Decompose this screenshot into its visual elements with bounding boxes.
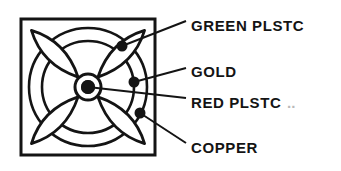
fan-impeller-diagram: GREEN PLSTCGOLDRED PLSTC..COPPER <box>0 0 341 171</box>
callout-labels: GREEN PLSTCGOLDRED PLSTC..COPPER <box>191 17 304 156</box>
marker-dot-green-plstc <box>117 41 128 52</box>
marker-dot-red-plstc <box>81 80 95 94</box>
scan-artifact-red-plstc: .. <box>287 94 295 111</box>
callout-label-green-plstc: GREEN PLSTC <box>191 17 304 34</box>
callout-label-gold: GOLD <box>191 63 237 80</box>
marker-dot-copper <box>135 108 146 119</box>
marker-dot-gold <box>129 77 140 88</box>
figure-page: GREEN PLSTCGOLDRED PLSTC..COPPER <box>0 0 341 171</box>
callout-label-red-plstc: RED PLSTC <box>191 94 281 111</box>
callout-label-copper: COPPER <box>191 139 258 156</box>
